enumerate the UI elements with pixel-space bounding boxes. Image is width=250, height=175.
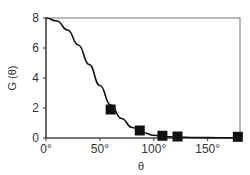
y-tick-label: 2 [32, 101, 39, 115]
data-point-marker [172, 132, 182, 142]
x-tick-label: 150° [195, 142, 220, 156]
y-tick-label: 8 [32, 11, 39, 25]
data-point-marker [157, 131, 167, 141]
y-tick-label: 4 [32, 71, 39, 85]
y-tick-label: 0 [32, 131, 39, 145]
y-tick-label: 6 [32, 41, 39, 55]
fit-curve [46, 18, 240, 138]
data-point-marker [106, 105, 116, 115]
x-tick-label: 50° [91, 142, 109, 156]
x-axis-label: θ [138, 160, 144, 172]
data-point-marker [135, 126, 145, 136]
x-axis: 0°50°100°150° [40, 138, 220, 156]
data-point-marker [233, 132, 243, 142]
chart: 02468 0°50°100°150° G (θ) θ [0, 0, 250, 175]
x-tick-label: 100° [141, 142, 166, 156]
x-tick-label: 0° [40, 142, 52, 156]
y-axis: 02468 [32, 11, 46, 145]
plot-frame [46, 18, 240, 138]
y-axis-label: G (θ) [6, 65, 18, 90]
